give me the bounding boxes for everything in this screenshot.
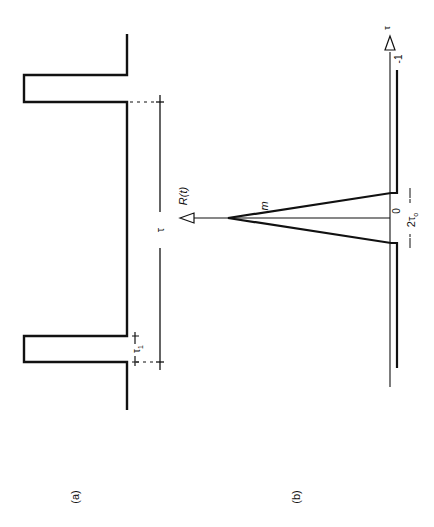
pulse-width-subscript: 1 <box>137 345 144 349</box>
period-label: τ <box>154 227 166 232</box>
r-axis-label: R(t) <box>177 187 189 206</box>
r-axis-arrowhead-icon <box>180 213 194 223</box>
panel-b: τ R(t) m -1 0 2τo (b) <box>177 26 419 504</box>
svg-text:2τo: 2τo <box>405 213 419 227</box>
origin-label: 0 <box>391 208 402 214</box>
peak-label: m <box>258 201 270 210</box>
baseline-label: -1 <box>393 54 404 63</box>
tau-axis-label: τ <box>382 26 392 30</box>
panel-b-label: (b) <box>290 490 302 503</box>
panel-a: τ τ1 (a) <box>24 34 166 504</box>
base-width-subscript: o <box>412 213 419 217</box>
tau-axis-arrowhead-icon <box>385 36 395 50</box>
base-width-label: 2τ <box>405 216 417 227</box>
autocorrelation-curve <box>228 70 397 368</box>
pulse-train-waveform <box>24 34 127 410</box>
svg-text:τ1: τ1 <box>131 345 144 353</box>
panel-a-label: (a) <box>69 490 81 503</box>
figure: τ τ1 (a) τ R(t) m -1 0 <box>0 0 434 527</box>
